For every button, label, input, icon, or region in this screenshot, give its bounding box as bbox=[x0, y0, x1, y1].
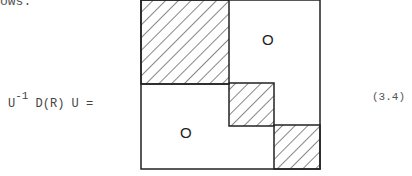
block-1 bbox=[141, 0, 229, 84]
block-3 bbox=[274, 125, 320, 169]
zero-upper: O bbox=[262, 31, 274, 48]
block-2 bbox=[229, 83, 274, 126]
block-matrix-diagram bbox=[0, 0, 412, 176]
zero-lower: O bbox=[180, 124, 192, 141]
